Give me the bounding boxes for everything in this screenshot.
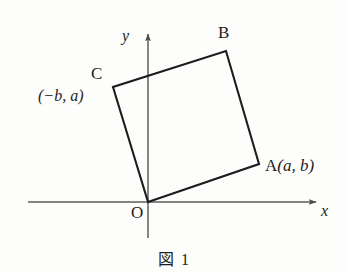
- vertex-b-label: B: [218, 24, 229, 41]
- figure-caption-number: 1: [181, 251, 190, 268]
- vertex-c-coordinates: (−b, a): [38, 88, 83, 104]
- vertex-c-label: C: [91, 65, 102, 82]
- figure-caption-symbol: 図: [158, 251, 175, 268]
- vertex-a-coordinates: (a, b): [277, 156, 314, 175]
- x-axis-label: x: [321, 203, 328, 219]
- square-oabc: [113, 51, 259, 202]
- figure-caption: 図1: [0, 246, 347, 270]
- figure-drawing: [0, 0, 347, 273]
- y-axis-label: y: [122, 28, 129, 44]
- origin-label: O: [131, 204, 143, 221]
- vertex-a-label: A(a, b): [265, 157, 314, 174]
- figure-container: y x O B C A(a, b) (−b, a) 図1: [0, 0, 347, 273]
- vertex-a-letter: A: [265, 156, 277, 175]
